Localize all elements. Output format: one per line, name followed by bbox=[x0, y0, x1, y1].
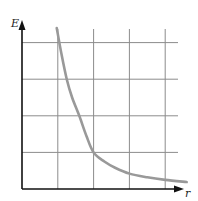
y-axis-arrow-icon bbox=[19, 20, 26, 30]
x-axis-label: r bbox=[185, 187, 191, 200]
curve-line bbox=[57, 28, 187, 182]
axes bbox=[19, 20, 185, 193]
grid-lines bbox=[22, 29, 178, 189]
y-axis-label: E bbox=[10, 17, 19, 30]
energy-vs-distance-chart: E r bbox=[0, 0, 198, 201]
x-axis-arrow-icon bbox=[174, 186, 184, 193]
